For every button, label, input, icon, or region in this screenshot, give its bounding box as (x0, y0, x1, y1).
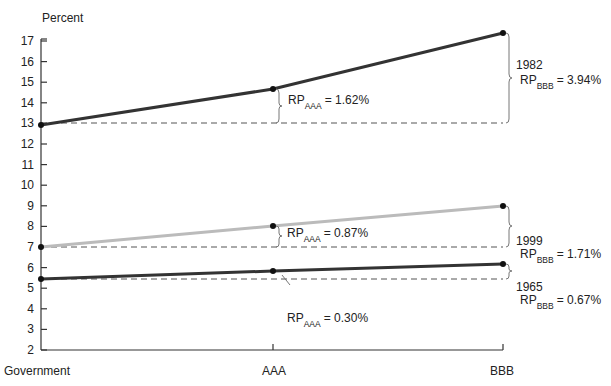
y-tick-label: 3 (27, 322, 34, 336)
y-tick-label: 2 (27, 343, 34, 357)
svg-text:1999: 1999 (516, 234, 543, 248)
y-axis (41, 39, 47, 350)
y-tick-label: 6 (27, 261, 34, 275)
x-label-government: Government (4, 364, 71, 378)
y-tick-label: 9 (27, 199, 34, 213)
y-tick-label: 8 (27, 219, 34, 233)
y-tick-label: 13 (21, 116, 35, 130)
y-axis-label: Percent (42, 11, 84, 25)
annotation-1999-bbb: 1999 RPBBB= 1.71% (516, 234, 601, 265)
data-points (38, 30, 506, 282)
svg-text:RPBBB= 0.67%: RPBBB= 0.67% (520, 293, 601, 311)
y-tick-label: 10 (21, 178, 35, 192)
y-tick-label: 11 (22, 158, 35, 172)
annotation-1982-bbb: 1982 RPBBB= 3.94% (516, 58, 601, 91)
series-1982-line (41, 33, 503, 125)
x-label-aaa: AAA (262, 364, 286, 378)
y-tick-label: 17 (21, 34, 35, 48)
annotation-1999-aaa: RPAAA= 0.87% (287, 226, 368, 244)
government-baselines (41, 123, 503, 279)
y-tick-label: 15 (21, 75, 35, 89)
y-tick-label: 7 (27, 240, 34, 254)
svg-text:RPBBB= 1.71%: RPBBB= 1.71% (520, 247, 601, 265)
svg-text:1965: 1965 (516, 280, 543, 294)
x-axis (41, 344, 503, 350)
svg-text:RPAAA= 0.87%: RPAAA= 0.87% (287, 226, 368, 244)
y-tick-label: 14 (21, 96, 35, 110)
svg-text:RPBBB= 3.94%: RPBBB= 3.94% (520, 73, 601, 91)
x-label-bbb: BBB (490, 364, 514, 378)
y-tick-label: 4 (27, 302, 34, 316)
y-ticks: 234567891011121314151617 (21, 34, 47, 357)
annotation-1982-aaa: RPAAA= 1.62% (288, 93, 369, 111)
y-tick-label: 12 (21, 137, 35, 151)
svg-text:1982: 1982 (516, 58, 543, 72)
y-tick-label: 5 (27, 281, 34, 295)
annotation-1965-bbb: 1965 RPBBB= 0.67% (516, 280, 601, 311)
svg-text:RPAAA= 1.62%: RPAAA= 1.62% (288, 93, 369, 111)
annotation-1965-aaa: RPAAA= 0.30% (287, 311, 368, 329)
svg-text:RPAAA= 0.30%: RPAAA= 0.30% (287, 311, 368, 329)
risk-premium-chart: 234567891011121314151617 Percent Governm… (0, 0, 611, 386)
y-tick-label: 16 (21, 55, 35, 69)
